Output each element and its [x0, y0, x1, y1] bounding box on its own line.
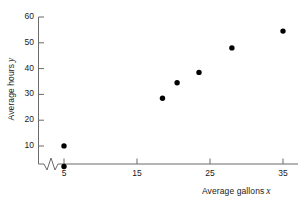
data-point	[280, 28, 285, 33]
y-axis-title: Average hoursy	[6, 41, 16, 137]
plot-area	[0, 0, 304, 202]
y-axis-title-text: Average hours	[6, 64, 16, 120]
data-point	[61, 143, 66, 148]
y-tick-label-10: 10	[12, 140, 34, 150]
x-tick-label-35: 35	[273, 168, 293, 178]
y-axis-symbol: y	[6, 58, 16, 64]
data-points	[61, 28, 285, 169]
x-axis-symbol: x	[264, 186, 270, 196]
data-point	[229, 45, 234, 50]
x-axis-title-text: Average gallons	[202, 186, 264, 196]
x-axis-title: Average gallonsx	[202, 186, 271, 196]
data-point	[174, 80, 179, 85]
y-tick-label-60: 60	[12, 11, 34, 21]
x-tick-label-15: 15	[127, 168, 147, 178]
scatter-plot: 60 50 40 30 20 10 5 15 25 35 Average hou…	[0, 0, 304, 202]
x-axis-ticks	[64, 159, 283, 165]
data-point	[196, 70, 201, 75]
x-tick-label-5: 5	[54, 168, 74, 178]
y-axis-ticks	[39, 17, 45, 146]
data-point	[160, 96, 165, 101]
x-tick-label-25: 25	[200, 168, 220, 178]
